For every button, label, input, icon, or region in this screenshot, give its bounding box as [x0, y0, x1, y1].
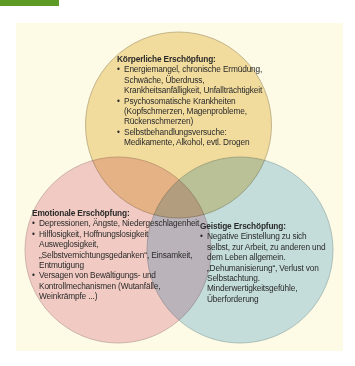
list-item: Hilflosigkeit, Hoffnungslosigkeit Ausweg…	[32, 229, 200, 271]
emotional-exhaustion-list: Depressionen, Ängste, Niedergeschlagenhe…	[32, 218, 200, 301]
physical-exhaustion-list: Energiemangel, chronische Ermüdung, Schw…	[117, 64, 267, 147]
list-item: Versagen von Bewältigungs- und Kontrollm…	[32, 270, 200, 301]
list-item: Psychosomatische Krankheiten (Kopfschmer…	[117, 96, 267, 127]
mental-exhaustion-title: Geistige Erschöpfung:	[200, 221, 330, 231]
emotional-exhaustion-title: Emotionale Erschöpfung:	[32, 208, 200, 218]
physical-exhaustion-title: Körperliche Erschöpfung:	[117, 54, 267, 64]
physical-exhaustion-block: Körperliche Erschöpfung: Energiemangel, …	[117, 54, 267, 148]
mental-exhaustion-list: Negative Einstellung zu sich selbst, zur…	[200, 231, 330, 304]
list-item: Negative Einstellung zu sich selbst, zur…	[200, 231, 330, 304]
emotional-exhaustion-block: Emotionale Erschöpfung: Depressionen, Än…	[32, 208, 200, 302]
list-item: Selbstbehandlungsversuche: Medikamente, …	[117, 127, 267, 148]
list-item: Energiemangel, chronische Ermüdung, Schw…	[117, 64, 267, 95]
mental-exhaustion-block: Geistige Erschöpfung: Negative Einstellu…	[200, 221, 330, 304]
list-item: Depressionen, Ängste, Niedergeschlagenhe…	[32, 218, 200, 228]
